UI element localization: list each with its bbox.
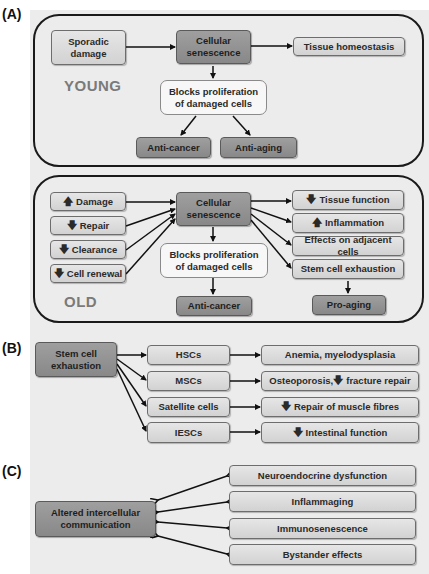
osteoporosis-effect-node: Osteoporosis, 🡇fracture repair — [261, 371, 419, 391]
stem-cell-exhaustion-output-node: Stem cell exhaustion — [292, 259, 404, 279]
arrow-down-icon: 🡇 — [59, 244, 69, 256]
old-stage-label: OLD — [64, 293, 97, 310]
adjacent-cells-output-node: Effects on adjacent cells — [292, 236, 404, 256]
cellular-senescence-node-young: Cellular senescence — [176, 30, 251, 64]
arrow-down-icon: 🡇 — [54, 268, 64, 280]
clearance-input-node: 🡇Clearance — [50, 240, 126, 259]
arrow-down-icon: 🡇 — [333, 375, 343, 387]
arrow-down-icon: 🡇 — [293, 427, 303, 439]
anti-cancer-node-young: Anti-cancer — [136, 137, 211, 158]
mscs-node: MSCs — [147, 371, 230, 391]
panel-a-label: (A) — [2, 6, 21, 22]
stem-cell-exhaustion-source-node: Stem cell exhaustion — [35, 342, 117, 377]
arrow-down-icon: 🡇 — [67, 220, 77, 232]
repair-input-node: 🡇Repair — [50, 216, 126, 235]
neuroendocrine-node: Neuroendocrine dysfunction — [229, 465, 416, 486]
tissue-function-output-node: 🡇Tissue function — [292, 190, 404, 210]
iescs-node: IESCs — [147, 422, 230, 443]
blocks-proliferation-node-old: Blocks proliferation of damaged cells — [160, 243, 268, 278]
arrow-down-icon: 🡇 — [281, 401, 291, 413]
young-stage-label: YOUNG — [64, 77, 122, 94]
panel-c-label: (C) — [2, 463, 21, 479]
anti-cancer-node-old: Anti-cancer — [176, 296, 252, 316]
anti-aging-node: Anti-aging — [220, 137, 297, 158]
arrow-down-icon: 🡇 — [306, 194, 316, 206]
intestinal-function-effect-node: 🡇Intestinal function — [261, 422, 419, 443]
anemia-effect-node: Anemia, myelodysplasia — [261, 345, 419, 365]
cell-renewal-input-node: 🡇Cell renewal — [50, 264, 126, 283]
hscs-node: HSCs — [147, 345, 230, 365]
damage-input-node: 🡅Damage — [50, 192, 126, 211]
muscle-repair-effect-node: 🡇Repair of muscle fibres — [261, 397, 419, 417]
sporadic-damage-node: Sporadic damage — [51, 30, 126, 65]
arrow-up-icon: 🡅 — [312, 217, 322, 229]
inflammation-output-node: 🡅Inflammation — [292, 213, 404, 233]
arrow-up-icon: 🡅 — [63, 196, 73, 208]
bystander-effects-node: Bystander effects — [229, 544, 416, 565]
immunosenescence-node: Immunosenescence — [229, 518, 416, 539]
cellular-senescence-node-old: Cellular senescence — [176, 192, 251, 226]
pro-aging-node: Pro-aging — [312, 295, 386, 315]
satellite-cells-node: Satellite cells — [147, 397, 230, 417]
blocks-proliferation-node-young: Blocks proliferation of damaged cells — [160, 80, 267, 115]
altered-communication-source-node: Altered intercellular communication — [35, 501, 156, 537]
panel-b-label: (B) — [2, 340, 21, 356]
inflammaging-node: Inflammaging — [229, 491, 416, 512]
tissue-homeostasis-node: Tissue homeostasis — [293, 37, 405, 56]
